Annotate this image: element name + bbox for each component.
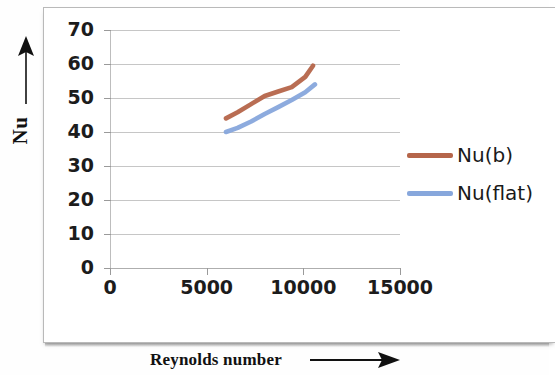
- legend-swatch-icon: [407, 191, 453, 196]
- gridline: [110, 234, 400, 235]
- x-tick-label: 5000: [157, 278, 257, 297]
- x-tick-mark: [110, 268, 111, 275]
- gridline: [110, 200, 400, 201]
- y-tick-label: 60: [48, 54, 94, 73]
- right-arrow-icon: [308, 351, 404, 369]
- y-tick-label: 50: [48, 88, 94, 107]
- x-tick-label: 10000: [253, 278, 353, 297]
- x-axis-title-label: Reynolds number: [150, 350, 282, 370]
- y-tick-mark: [104, 98, 111, 99]
- legend-swatch-icon: [407, 153, 453, 158]
- plot-area: [110, 30, 400, 268]
- y-tick-label: 10: [48, 224, 94, 243]
- x-tick-mark: [400, 268, 401, 275]
- y-tick-label: 30: [48, 156, 94, 175]
- y-tick-label: 70: [48, 20, 94, 39]
- legend-item-1[interactable]: Nu(flat): [407, 174, 547, 212]
- legend-label: Nu(b): [457, 145, 513, 165]
- legend-label: Nu(flat): [457, 183, 533, 203]
- y-tick-mark: [104, 30, 111, 31]
- chart-legend: Nu(b)Nu(flat): [407, 136, 547, 212]
- y-axis-title-label: Nu: [8, 91, 33, 171]
- y-axis-title: Nu: [2, 52, 42, 162]
- gridline: [110, 132, 400, 133]
- x-axis-title: Reynolds number: [150, 350, 404, 370]
- frame-drop-shadow: [45, 343, 549, 347]
- x-tick-label: 15000: [350, 278, 450, 297]
- x-axis-line: [110, 268, 401, 269]
- y-tick-mark: [104, 234, 111, 235]
- y-tick-mark: [104, 132, 111, 133]
- x-tick-mark: [207, 268, 208, 275]
- gridline: [110, 30, 400, 31]
- y-tick-mark: [104, 200, 111, 201]
- y-tick-mark: [104, 166, 111, 167]
- y-tick-label: 20: [48, 190, 94, 209]
- x-tick-label: 0: [60, 278, 160, 297]
- x-tick-mark: [303, 268, 304, 275]
- gridline: [110, 98, 400, 99]
- y-tick-label: 40: [48, 122, 94, 141]
- gridline: [110, 64, 400, 65]
- legend-item-0[interactable]: Nu(b): [407, 136, 547, 174]
- gridline: [110, 166, 400, 167]
- y-tick-label: 0: [48, 258, 94, 277]
- y-tick-mark: [104, 64, 111, 65]
